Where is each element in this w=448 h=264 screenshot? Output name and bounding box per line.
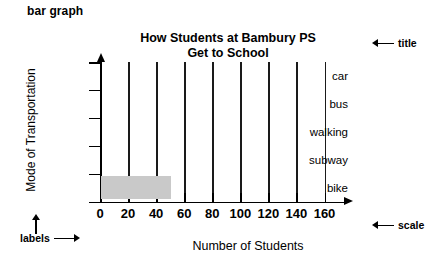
x-axis-tick-label: 140 [286, 206, 308, 221]
x-axis-tick [268, 193, 270, 202]
annotation-title-label: title [398, 37, 417, 49]
gridline [268, 62, 270, 202]
x-axis-tick-label: 120 [258, 206, 280, 221]
arrow-right-icon [54, 234, 80, 242]
category-label-bus: bus [329, 98, 348, 110]
gridline [296, 62, 298, 202]
x-axis-tick [325, 193, 327, 202]
y-axis-tick [89, 90, 100, 92]
x-axis-tick-label: 0 [96, 206, 103, 221]
annotation-scale-label: scale [398, 219, 424, 231]
annotation-scale: scale [372, 219, 424, 231]
annotation-labels-label: labels [20, 232, 50, 244]
category-label-bike: bike [327, 182, 348, 194]
y-axis-title: Mode of Transportation [24, 50, 38, 210]
x-axis-line [100, 202, 345, 204]
category-label-car: car [332, 70, 348, 82]
annotation-title: title [372, 37, 417, 49]
x-axis-tick [184, 193, 186, 202]
x-axis-arrowhead-icon [344, 197, 353, 205]
bar-graph-caption: bar graph [27, 4, 83, 18]
plot-area: carbuswalkingsubwaybike 0204060801001201… [100, 40, 362, 203]
y-axis-tick [89, 118, 100, 120]
arrow-left-icon [372, 39, 394, 47]
category-label-walking: walking [310, 126, 348, 138]
x-axis-title: Number of Students [148, 239, 348, 253]
x-axis-tick-label: 100 [229, 206, 251, 221]
bar-bike [101, 176, 171, 198]
y-axis-tick [89, 174, 100, 176]
x-axis-tick-label: 160 [314, 206, 336, 221]
x-axis-tick-label: 20 [121, 206, 135, 221]
arrow-up-icon [31, 214, 41, 234]
gridline [184, 62, 186, 202]
y-axis-tick [89, 146, 100, 148]
x-axis-tick [240, 193, 242, 202]
x-axis-tick-label: 60 [177, 206, 191, 221]
x-axis-tick-label: 40 [149, 206, 163, 221]
gridline [240, 62, 242, 202]
y-axis-arrowhead-icon [97, 53, 105, 62]
category-label-subway: subway [309, 154, 348, 166]
annotation-labels: labels [20, 232, 80, 244]
gridline [212, 62, 214, 202]
x-axis-tick-label: 80 [205, 206, 219, 221]
x-axis-tick [296, 193, 298, 202]
y-axis-tick [89, 202, 100, 204]
x-axis-tick [212, 193, 214, 202]
arrow-left-icon [372, 221, 394, 229]
y-axis-tick [89, 62, 100, 64]
